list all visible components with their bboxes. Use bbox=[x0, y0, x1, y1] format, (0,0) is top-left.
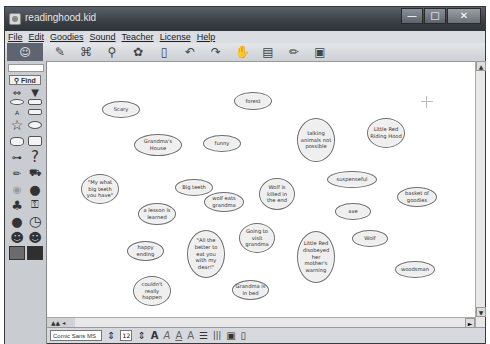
idea-node[interactable]: woodsman bbox=[395, 261, 435, 278]
window-controls: — □ ✕ bbox=[401, 8, 481, 24]
idea-node[interactable]: talking animals not possible bbox=[297, 118, 335, 162]
arrows-icon[interactable]: ⇔ bbox=[8, 88, 26, 96]
frame-icon[interactable]: ▣ bbox=[226, 330, 235, 342]
idea-node[interactable]: Grandma is in bed bbox=[232, 280, 269, 300]
idea-node[interactable]: Little Red Riding Hood bbox=[367, 118, 405, 148]
picture-to-topic-icon[interactable]: ✎ bbox=[49, 44, 71, 60]
idea-node[interactable]: "All the better to eat you with my dear!… bbox=[187, 230, 225, 278]
idea-node[interactable]: Wolf is killed in the end bbox=[259, 178, 295, 210]
idea-node[interactable]: Wolf bbox=[352, 230, 388, 247]
truck-icon[interactable]: ⛟ bbox=[26, 166, 44, 180]
rounded-rect-shape-icon[interactable] bbox=[26, 108, 44, 116]
app-icon bbox=[9, 13, 21, 25]
symbol-grid: ⇔ ▼ A ☆ ⊶ ? ✏ ⛟ ◉ ● ♣ ⚿ ● ◷ ☻ ☻ bbox=[8, 88, 44, 260]
idea-node[interactable]: funny bbox=[203, 135, 241, 152]
menu-goodies[interactable]: Goodies bbox=[50, 31, 84, 43]
underline-button[interactable]: A bbox=[175, 330, 182, 342]
symbol-palette: ⚲ Find ⇔ ▼ A ☆ ⊶ ? ✏ ⛟ ◉ ● ♣ ⚿ ● ◷ ☻ ☻ bbox=[5, 61, 47, 344]
idea-node[interactable]: Big teeth bbox=[175, 179, 213, 196]
apple-icon[interactable]: ● bbox=[8, 214, 26, 228]
menu-license[interactable]: License bbox=[160, 31, 191, 43]
bone-icon[interactable]: ⊶ bbox=[8, 150, 26, 164]
globe-icon[interactable]: ● bbox=[26, 182, 44, 196]
lightbulb-icon[interactable]: ◉ bbox=[8, 182, 26, 196]
dropdown-icon[interactable]: ▼ bbox=[26, 88, 44, 96]
undo-icon[interactable]: ↶ bbox=[179, 44, 201, 60]
font-family-select[interactable]: Comic Sans MS bbox=[50, 330, 102, 341]
color-swatch-icon[interactable]: ▯ bbox=[241, 330, 247, 342]
idea-node[interactable]: "My what big teeth you have" bbox=[81, 174, 119, 204]
diagram-canvas[interactable]: ScaryforestGrandma's Housefunnytalking a… bbox=[47, 61, 475, 327]
superscript-button[interactable]: A bbox=[187, 330, 194, 342]
crosshair-cursor-icon bbox=[421, 96, 433, 108]
hand-pointer-icon[interactable]: ✋ bbox=[231, 44, 253, 60]
menu-sound[interactable]: Sound bbox=[90, 31, 116, 43]
maximize-button[interactable]: □ bbox=[424, 8, 446, 24]
notes-icon[interactable]: ▤ bbox=[257, 44, 279, 60]
picture-scene-icon[interactable] bbox=[8, 246, 26, 260]
link-icon[interactable]: ⚲ bbox=[101, 44, 123, 60]
italic-button[interactable]: A bbox=[164, 330, 171, 342]
scroll-up-button[interactable]: ▲ bbox=[476, 61, 486, 71]
menu-file[interactable]: File bbox=[8, 31, 23, 43]
idea-node[interactable]: couldn't really happen bbox=[133, 276, 171, 306]
idea-node[interactable]: axe bbox=[335, 203, 371, 220]
idea-node[interactable]: basket of goodies bbox=[397, 187, 437, 207]
star-icon[interactable]: ☆ bbox=[8, 118, 26, 132]
oval-shape-icon[interactable] bbox=[8, 98, 26, 106]
cloud-icon[interactable] bbox=[26, 118, 44, 132]
clock-icon[interactable]: ◷ bbox=[26, 214, 44, 228]
formatting-toolbar: Comic Sans MS ⇕ 12 ⇕ A A A A ☰ ||| ▣ ▯ bbox=[47, 327, 485, 343]
speech-bubble-icon[interactable] bbox=[8, 134, 26, 148]
horizontal-scrollbar[interactable]: ▲▲ ◂ ► bbox=[47, 317, 475, 327]
label-icon[interactable]: A bbox=[8, 108, 26, 116]
close-button[interactable]: ✕ bbox=[447, 8, 481, 24]
picture-night-icon[interactable] bbox=[26, 246, 44, 260]
eraser-icon[interactable]: ▯ bbox=[153, 44, 175, 60]
symbol-search-field[interactable] bbox=[8, 64, 44, 72]
paper-icon[interactable] bbox=[26, 134, 44, 148]
menu-help[interactable]: Help bbox=[197, 31, 216, 43]
idea-node[interactable]: Grandma's House bbox=[134, 134, 182, 156]
idea-node[interactable]: Scary bbox=[102, 101, 140, 118]
align-lines-icon[interactable]: ☰ bbox=[199, 330, 208, 342]
idea-node[interactable]: suspenseful bbox=[327, 171, 377, 188]
girl-icon[interactable]: ☻ bbox=[26, 230, 44, 244]
size-stepper-2-icon[interactable]: ⇕ bbox=[137, 330, 145, 342]
pencil-symbol-icon[interactable]: ✏ bbox=[8, 166, 26, 180]
redo-icon[interactable]: ↷ bbox=[205, 44, 227, 60]
columns-icon[interactable]: ||| bbox=[213, 330, 221, 342]
symbols-icon[interactable]: ✿ bbox=[127, 44, 149, 60]
size-stepper-icon[interactable]: ⇕ bbox=[107, 330, 115, 342]
menu-edit[interactable]: Edit bbox=[29, 31, 45, 43]
vertical-scrollbar[interactable]: ▲ ▼ bbox=[475, 61, 485, 327]
key-icon[interactable]: ⚿ bbox=[26, 198, 44, 212]
outline-diagram-icon[interactable]: ⌘ bbox=[75, 44, 97, 60]
idea-node[interactable]: Going to visit grandma bbox=[239, 223, 275, 253]
idea-node[interactable]: wolf eats grandma bbox=[204, 192, 244, 212]
idea-node[interactable]: Little Red disobeyed her mother's warnin… bbox=[297, 231, 335, 283]
find-button[interactable]: ⚲ Find bbox=[9, 75, 41, 85]
idea-node[interactable]: forest bbox=[234, 92, 272, 110]
window-title: readinghood.kid bbox=[25, 12, 96, 23]
minimize-button[interactable]: — bbox=[401, 8, 423, 24]
bold-button[interactable]: A bbox=[151, 330, 159, 342]
pencil-icon[interactable]: ✏ bbox=[283, 44, 305, 60]
app-window: readinghood.kid — □ ✕ File Edit Goodies … bbox=[4, 6, 486, 344]
find-label: Find bbox=[21, 77, 36, 84]
title-bar[interactable]: readinghood.kid — □ ✕ bbox=[5, 7, 485, 31]
font-size-field[interactable]: 12 bbox=[120, 330, 132, 341]
idea-node[interactable]: happy ending bbox=[127, 241, 164, 261]
scroll-down-button[interactable]: ▼ bbox=[476, 307, 486, 317]
boy-icon[interactable]: ☻ bbox=[8, 230, 26, 244]
map-view-icon[interactable]: ▣ bbox=[309, 44, 331, 60]
idea-node[interactable]: a lesson is learned bbox=[138, 203, 176, 225]
menu-bar: File Edit Goodies Sound Teacher License … bbox=[5, 31, 485, 43]
toolbar: ☺ ✎ ⌘ ⚲ ✿ ▯ ↶ ↷ ✋ ▤ ✏ ▣ bbox=[5, 43, 485, 61]
menu-teacher[interactable]: Teacher bbox=[122, 31, 154, 43]
question-mark-icon[interactable]: ? bbox=[26, 150, 44, 164]
kidspiration-logo-icon[interactable]: ☺ bbox=[7, 43, 43, 61]
tree-icon[interactable]: ♣ bbox=[8, 198, 26, 212]
rectangle-shape-icon[interactable] bbox=[26, 98, 44, 106]
